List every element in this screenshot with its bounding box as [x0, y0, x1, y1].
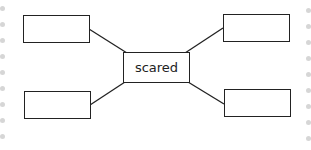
branch-box-top-right[interactable] — [223, 14, 290, 42]
mind-map-worksheet: scared — [0, 0, 311, 150]
branch-box-bottom-right[interactable] — [224, 89, 291, 117]
center-label: scared — [135, 60, 178, 75]
branch-box-bottom-left[interactable] — [24, 91, 91, 119]
branch-box-top-left[interactable] — [23, 15, 90, 43]
center-box: scared — [123, 52, 190, 83]
